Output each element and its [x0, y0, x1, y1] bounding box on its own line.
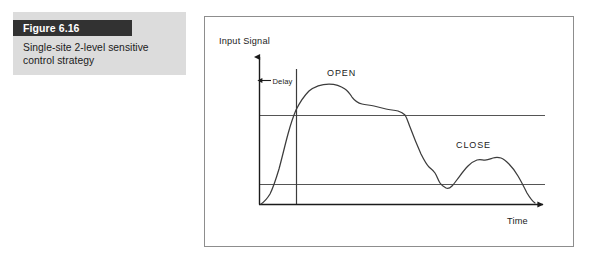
open-state-label: OPEN [327, 68, 356, 78]
input-signal-curve [261, 84, 535, 204]
figure-number-label: Figure 6.16 [23, 21, 80, 35]
y-axis-label: Input Signal [219, 36, 270, 46]
delay-label: Delay [273, 77, 293, 86]
x-axis-label: Time [507, 216, 528, 226]
figure-number-banner: Figure 6.16 [13, 20, 132, 36]
figure-caption-panel: Figure 6.16 Single-site 2-level sensitiv… [13, 12, 186, 75]
control-strategy-chart: Delay Input Signal Time OPEN CLOSE [205, 17, 575, 248]
figure-caption-text: Single-site 2-level sensitive control st… [23, 42, 181, 67]
figure-frame: Delay Input Signal Time OPEN CLOSE [204, 16, 574, 247]
close-state-label: CLOSE [456, 140, 491, 150]
